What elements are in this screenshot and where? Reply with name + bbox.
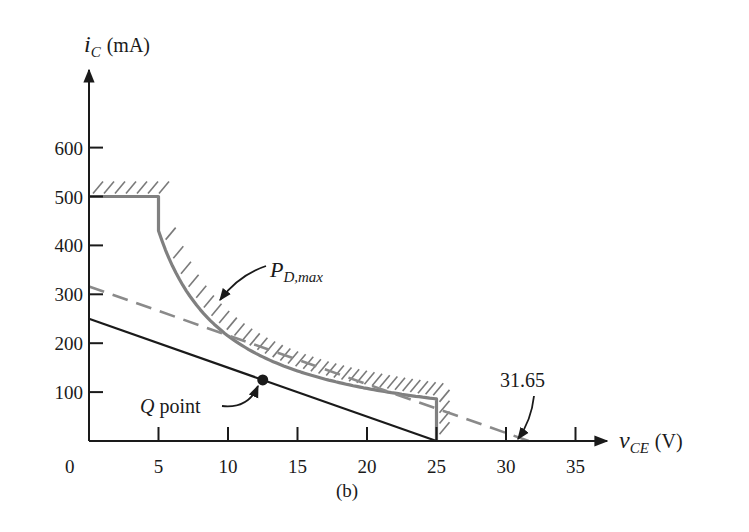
hatch-stroke [104,182,114,194]
y-tick-label: 300 [55,284,84,305]
hatch-stroke [159,182,169,194]
y-tick-label: 100 [55,382,84,403]
hatch-stroke [433,383,443,395]
x-tick-label: 15 [288,456,307,477]
x-tick-label: 35 [566,456,585,477]
q-point-arrow [222,386,258,406]
hatch-stroke [440,422,450,434]
origin-label: 0 [65,456,75,477]
y-tick-label: 400 [55,235,84,256]
y-axis-label-main: i [84,31,91,57]
pd-max-label: PD,max [269,257,323,285]
x-axis-label-main: v [619,427,630,453]
x-axis-label: vCE(V) [619,427,683,456]
y-ticks: 100200300400500600 [55,138,104,404]
q-point-marker [257,374,268,385]
hatch-stroke [115,182,125,194]
x-tick-label: 10 [219,456,238,477]
hatch-stroke [380,375,390,387]
x-tick-label: 20 [358,456,377,477]
q-point-q: Q [140,395,155,417]
pd-max-arrow [220,266,266,300]
y-tick-label: 600 [55,138,84,159]
hatch-stroke [387,377,397,389]
q-point-text: point [154,395,201,418]
chart-canvas: 5101520253035 100200300400500600 Q point… [0,0,749,532]
y-axis-label: iC(mA) [84,31,150,60]
hatch-stroke [410,380,420,392]
x-axis-label-unit: (V) [655,430,683,453]
x-tick-label: 30 [497,456,516,477]
y-axis-label-sub: C [91,44,102,60]
figure-caption: (b) [336,480,358,502]
hatch-stroke [189,275,199,287]
hatch-stroke [403,379,413,391]
y-tick-label: 200 [55,333,84,354]
hatch-stroke [181,262,191,274]
q-point-label: Q point [140,395,201,418]
hatch-stroke [334,366,344,378]
hatch-stroke [227,318,237,330]
x-intercept-arrow [518,396,534,439]
hatch-stroke [126,182,136,194]
hatch-stroke [426,382,436,394]
hatch-stroke [418,381,428,393]
x-tick-label: 5 [154,456,164,477]
dashed-load-line [89,286,529,441]
hatch-stroke [148,182,158,194]
hatch-stroke [319,362,329,374]
x-tick-label: 25 [427,456,446,477]
x-axis-label-sub: CE [630,440,649,456]
hatch-stroke [242,329,252,341]
hatch-stroke [440,390,450,402]
hatch-stroke [204,295,214,307]
hatch-stroke [234,323,244,335]
y-tick-label: 500 [55,187,84,208]
hatch-stroke [93,182,103,194]
hatch-stroke [212,304,222,316]
hatch-stroke [296,354,306,366]
y-axis-label-unit: (mA) [107,34,150,57]
hatch-stroke [364,372,374,384]
hatch-stroke [173,246,183,258]
hatch-stroke [372,374,382,386]
hatch-stroke [219,311,229,323]
hatch-stroke [196,286,206,298]
hatch-stroke [166,228,176,240]
hatch-stroke [137,182,147,194]
pd-main: P [269,257,283,282]
hatch-stroke [395,378,405,390]
pd-sub: D,max [282,269,323,285]
x-intercept-label: 31.65 [500,369,545,391]
